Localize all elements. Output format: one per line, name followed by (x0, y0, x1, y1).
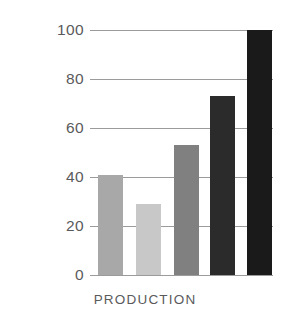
y-axis-tick-label-80: 80 (14, 70, 84, 88)
bar-5[interactable] (247, 30, 272, 275)
x-axis-label: PRODUCTION (0, 292, 290, 307)
bar-1[interactable] (98, 175, 123, 275)
y-axis-tick-label-60: 60 (14, 119, 84, 137)
bars-layer (90, 30, 280, 275)
bar-3[interactable] (174, 145, 199, 275)
bar-4[interactable] (210, 96, 235, 275)
y-axis-tick-label-20: 20 (14, 217, 84, 235)
axis-baseline-0 (90, 275, 273, 276)
y-axis-tick-label-40: 40 (14, 168, 84, 186)
bar-2[interactable] (136, 204, 161, 275)
y-axis-tick-label-100: 100 (14, 21, 84, 39)
y-axis-tick-label-0: 0 (14, 266, 84, 284)
bar-chart: 100 80 60 40 20 0 PRODUCTION (0, 0, 290, 328)
